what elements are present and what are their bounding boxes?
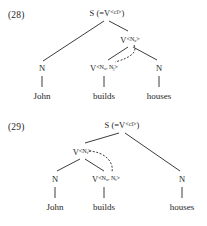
edge-root-to-v-na [109,21,128,31]
node-v-na-nj: V<Na, Nj> [90,64,118,73]
node-n-john: N [52,175,58,184]
leaf-houses: houses [147,92,172,101]
node-root-s: S (=V<cl>) [90,9,125,18]
figure-28-syntax-tree: (28) S (=V<cl>)NV<Na>V<Na, Nj>NJohnbuild… [0,0,207,113]
node-n-john: N [39,64,45,73]
leaf-builds: builds [93,203,115,212]
leaf-john: John [33,92,50,101]
edge-v-na-to-n-houses [133,47,157,60]
edge-v-nt-to-v-na-nt [85,159,104,171]
node-n-houses: N [179,175,185,184]
figure-29-syntax-tree: (29) S (=V<cl>)V<Nt>NV<Na, Nt>NJohnbuild… [0,113,207,226]
leaf-houses: houses [170,203,195,212]
edge-root-to-v-nt [85,133,119,143]
node-root-s: S (=V<cl>) [105,121,140,130]
edge-v-nt-to-n-john [57,159,80,171]
leaf-john: John [46,203,63,212]
node-n-houses: N [156,64,162,73]
edge-v-na-to-v-na-nj [108,47,128,60]
edge-root-to-n-houses [125,133,180,171]
node-v-na: V<Na> [120,36,139,45]
leaf-builds: builds [93,92,115,101]
edge-root-to-n-john [43,21,104,61]
node-v-nt: V<Nt> [73,148,92,157]
node-v-na-nt: V<Na, Nt> [92,175,120,184]
